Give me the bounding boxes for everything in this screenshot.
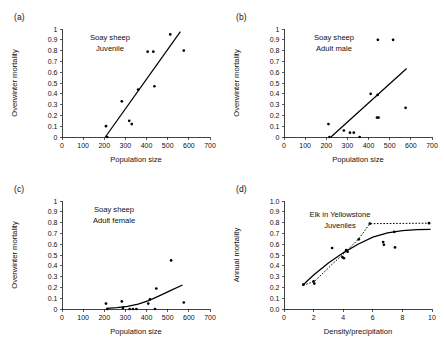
data-point: [392, 38, 395, 41]
x-axis-tick-label: 0: [282, 142, 286, 149]
x-axis-tick-label: 700: [204, 314, 216, 321]
y-axis-tick-label: 0.1: [48, 295, 58, 302]
x-axis-tick-label: 6: [371, 314, 375, 321]
x-axis-title: Population size: [332, 155, 384, 164]
y-axis-tick-label: 0.1: [48, 123, 58, 130]
data-point: [346, 250, 349, 253]
x-axis-tick-label: 100: [299, 142, 311, 149]
y-axis-tick-label: 0.3: [48, 101, 58, 108]
x-axis-tick-label: 300: [120, 314, 132, 321]
data-point: [369, 92, 372, 95]
data-point: [302, 283, 305, 286]
data-point: [376, 94, 379, 97]
panel-d-plot: 0.00.10.20.30.40.50.60.70.80.91.00246810…: [222, 172, 444, 343]
x-axis-tick-label: 700: [426, 142, 438, 149]
data-point: [343, 257, 346, 260]
y-axis-tick-label: 0.7: [270, 230, 280, 237]
y-axis-tick-label: 0.4: [48, 90, 58, 97]
data-point: [377, 116, 380, 119]
y-axis-tick-label: 0: [276, 134, 280, 141]
x-axis-tick-label: 200: [98, 314, 110, 321]
data-point: [368, 222, 371, 225]
x-axis-title: Population size: [110, 155, 162, 164]
y-axis-tick-label: 0.5: [48, 252, 58, 259]
x-axis-tick-label: 400: [141, 142, 153, 149]
regression-fit-line: [106, 285, 182, 308]
data-point: [105, 125, 108, 128]
data-point: [135, 308, 138, 311]
data-point: [146, 50, 149, 53]
panel-annotation-line1: Elk in Yellowstone: [310, 210, 371, 219]
data-point: [170, 259, 173, 262]
data-point: [169, 33, 172, 36]
y-axis-tick-label: 1: [54, 26, 58, 33]
y-axis-tick-label: 0.5: [270, 80, 280, 87]
y-axis-tick-label: 0.5: [48, 80, 58, 87]
panel-annotation-line2: Adult female: [93, 216, 135, 225]
data-point: [120, 100, 123, 103]
data-point: [105, 302, 108, 305]
x-axis-tick-label: 2: [312, 314, 316, 321]
x-axis-tick-label: 200: [320, 142, 332, 149]
data-point: [132, 308, 135, 311]
panel-annotation-line2: Juveniles: [324, 221, 356, 230]
y-axis-tick-label: 0.4: [270, 90, 280, 97]
x-axis-tick-label: 500: [162, 142, 174, 149]
data-point: [331, 247, 334, 250]
y-axis-title: Annual mortality: [232, 228, 241, 283]
x-axis-tick-label: 600: [183, 142, 195, 149]
y-axis-tick-label: 0: [54, 306, 58, 313]
data-point: [328, 136, 331, 139]
panel-a: (a) 00.10.20.30.40.50.60.70.80.910100200…: [0, 0, 222, 171]
data-point: [147, 302, 150, 305]
x-axis-tick-label: 100: [77, 314, 89, 321]
y-axis-tick-label: 0.5: [270, 252, 280, 259]
x-axis-tick-label: 300: [120, 142, 132, 149]
x-axis-tick-label: 8: [400, 314, 404, 321]
panel-d: (d) 0.00.10.20.30.40.50.60.70.80.91.0024…: [222, 172, 444, 343]
y-axis-tick-label: 0.2: [270, 112, 280, 119]
data-point: [349, 131, 352, 134]
y-axis-tick-label: 0.9: [48, 208, 58, 215]
y-axis-tick-label: 0.9: [48, 36, 58, 43]
y-axis-tick-label: 0.3: [48, 273, 58, 280]
data-point: [394, 246, 397, 249]
y-axis-tick-label: 0.8: [48, 47, 58, 54]
y-axis-title: Overwinter mortality: [10, 221, 19, 289]
panel-annotation-line1: Soay sheep: [314, 33, 354, 42]
panel-a-plot: 00.10.20.30.40.50.60.70.80.9101002003004…: [0, 0, 222, 171]
dotted-fit-line: [303, 223, 430, 285]
y-axis-tick-label: 0.1: [270, 295, 280, 302]
data-point: [128, 119, 131, 122]
panel-b-plot: 00.10.20.30.40.50.60.70.80.9101002003004…: [222, 0, 444, 171]
y-axis-tick-label: 0.4: [270, 262, 280, 269]
x-axis-tick-label: 600: [183, 314, 195, 321]
y-axis-tick-label: 0.6: [48, 69, 58, 76]
data-point: [106, 308, 109, 311]
x-axis-tick-label: 4: [341, 314, 345, 321]
x-axis-tick-label: 0: [60, 314, 64, 321]
panel-c: (c) 00.10.20.30.40.50.60.70.80.910100200…: [0, 172, 222, 343]
y-axis-tick-label: 0.4: [48, 262, 58, 269]
y-axis-tick-label: 0.2: [48, 284, 58, 291]
panel-annotation-line2: Juvenile: [96, 44, 124, 53]
y-axis-tick-label: 0.6: [48, 241, 58, 248]
y-axis-tick-label: 1: [276, 26, 280, 33]
data-point: [149, 298, 152, 301]
y-axis-tick-label: 0.3: [270, 101, 280, 108]
axis-lines: [284, 29, 432, 137]
y-axis-title: Overwinter mortality: [10, 49, 19, 117]
y-axis-tick-label: 0.6: [270, 69, 280, 76]
data-point: [153, 85, 156, 88]
data-point: [154, 308, 157, 311]
x-axis-tick-label: 600: [405, 142, 417, 149]
data-point: [106, 136, 109, 139]
y-axis-tick-label: 0: [54, 134, 58, 141]
panel-c-plot: 00.10.20.30.40.50.60.70.80.9101002003004…: [0, 172, 222, 343]
y-axis-tick-label: 0.2: [48, 112, 58, 119]
x-axis-title: Population size: [110, 327, 162, 336]
data-point: [152, 50, 155, 53]
regression-fit-line: [303, 229, 430, 284]
y-axis-tick-label: 1.0: [270, 198, 280, 205]
data-point: [327, 123, 330, 126]
